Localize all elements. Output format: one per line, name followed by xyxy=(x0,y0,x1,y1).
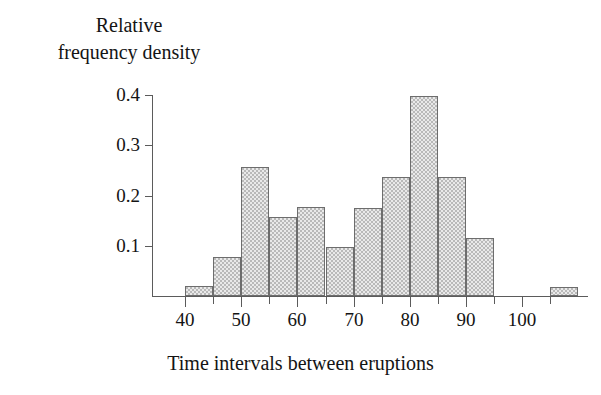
x-tick-mark-minor xyxy=(438,297,439,304)
histogram-bar xyxy=(269,217,297,296)
y-tick-label: 0.4 xyxy=(92,85,140,104)
histogram-bar xyxy=(466,238,494,296)
x-axis-title: Time intervals between eruptions xyxy=(0,350,601,376)
histogram-bar xyxy=(326,247,354,296)
y-tick-label: 0.2 xyxy=(92,186,140,205)
x-tick-mark-minor xyxy=(213,297,214,304)
y-tick-mark xyxy=(145,95,153,96)
x-tick-label: 70 xyxy=(332,309,376,331)
histogram-bar xyxy=(354,208,382,296)
x-tick-mark-major xyxy=(522,297,523,307)
x-tick-label: 80 xyxy=(388,309,432,331)
histogram-bar xyxy=(438,177,466,296)
x-tick-mark-major xyxy=(410,297,411,307)
plot-area: 0.10.20.30.4 405060708090100 xyxy=(0,0,601,340)
histogram-bar xyxy=(185,286,213,296)
histogram-bar xyxy=(241,167,269,296)
x-tick-mark-minor xyxy=(382,297,383,304)
histogram-bar xyxy=(410,96,438,296)
x-tick-label: 60 xyxy=(275,309,319,331)
y-tick-label: 0.3 xyxy=(92,135,140,154)
x-tick-mark-major xyxy=(241,297,242,307)
histogram-bar xyxy=(297,207,325,296)
x-tick-mark-major xyxy=(185,297,186,307)
x-tick-mark-major xyxy=(354,297,355,307)
x-tick-mark-major xyxy=(466,297,467,307)
histogram-figure: Relative frequency density 0.10.20.30.4 … xyxy=(0,0,601,395)
x-tick-mark-minor xyxy=(269,297,270,304)
x-tick-mark-minor xyxy=(326,297,327,304)
y-tick-mark xyxy=(145,246,153,247)
x-tick-label: 50 xyxy=(219,309,263,331)
x-tick-label: 100 xyxy=(500,309,544,331)
x-tick-label: 40 xyxy=(163,309,207,331)
histogram-bar xyxy=(550,287,578,296)
y-tick-mark xyxy=(145,196,153,197)
histogram-bar xyxy=(382,177,410,296)
x-tick-mark-major xyxy=(297,297,298,307)
histogram-bar xyxy=(213,257,241,296)
y-tick-mark xyxy=(145,145,153,146)
x-tick-mark-minor xyxy=(494,297,495,304)
x-tick-mark-minor xyxy=(550,297,551,304)
x-tick-label: 90 xyxy=(444,309,488,331)
y-tick-label: 0.1 xyxy=(92,236,140,255)
